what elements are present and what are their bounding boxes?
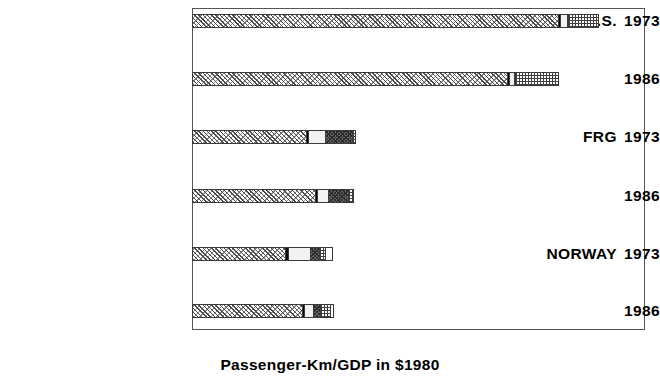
bar-segment-bus [561, 15, 568, 27]
y-axis-label-norway-1973: NORWAY1973 [474, 246, 660, 262]
bar-segment-auto [193, 73, 508, 85]
stacked-bar-u-s-1973[interactable] [192, 14, 599, 28]
y-axis-label-norway-1986: 1986 [474, 303, 660, 319]
y-axis-year: 1986 [624, 187, 660, 204]
stacked-bar-norway-1973[interactable] [192, 247, 333, 261]
y-axis-year: 1986 [624, 70, 660, 87]
bar-segment-bus [309, 131, 326, 143]
bar-segment-air [349, 190, 353, 202]
bar-segment-rail [329, 190, 348, 202]
bar-segment-air [321, 305, 330, 317]
bar-segment-rail [326, 131, 353, 143]
y-axis-year: 1973 [624, 128, 660, 145]
bar-segment-auto [193, 190, 316, 202]
bar-segment-bus [289, 248, 310, 260]
y-axis-year: 1973 [624, 245, 660, 262]
bar-segment-air [353, 131, 355, 143]
y-axis-label-frg-1986: 1986 [474, 188, 660, 204]
stacked-bar-frg-1986[interactable] [192, 189, 354, 203]
bar-segment-bus [305, 305, 315, 317]
y-axis-label-frg-1973: FRG1973 [474, 129, 660, 145]
bar-segment-rail [311, 248, 321, 260]
y-axis-country-name: NORWAY [546, 245, 616, 262]
y-axis-country-name: FRG [583, 128, 617, 145]
bar-segment-auto [193, 131, 307, 143]
stacked-bar-norway-1986[interactable] [192, 304, 334, 318]
y-axis-year: 1973 [624, 12, 660, 29]
bar-segment-rail [314, 305, 321, 317]
stacked-bar-u-s-1986[interactable] [192, 72, 559, 86]
bar-segment-auto [193, 305, 303, 317]
y-axis-year: 1986 [624, 302, 660, 319]
bar-segment-air [516, 73, 558, 85]
x-axis-tick-labels [0, 333, 660, 353]
bar-segment-air [569, 15, 597, 27]
bar-segment-sea [331, 305, 334, 317]
bar-segment-sea [326, 248, 333, 260]
x-axis-title: Passenger-Km/GDP in $1980 [0, 356, 660, 374]
bar-segment-auto [193, 15, 559, 27]
chart-root: U.S.19731986FRG19731986NORWAY19731986 Pa… [0, 0, 660, 389]
bar-segment-bus [318, 190, 329, 202]
stacked-bar-frg-1973[interactable] [192, 130, 356, 144]
plot-area [192, 8, 645, 330]
bar-segment-auto [193, 248, 286, 260]
